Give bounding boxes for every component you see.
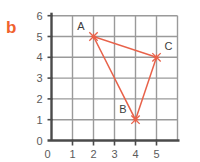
- axis-tick-labels: 0123456012345: [36, 10, 159, 160]
- point-label-c: C: [165, 40, 173, 52]
- y-axis-tick-label: 1: [36, 114, 42, 126]
- x-axis-tick-label: 5: [153, 148, 159, 160]
- point-marker-c: [152, 53, 160, 61]
- x-axis-tick-label: 2: [90, 148, 96, 160]
- point-label-b: B: [119, 103, 126, 115]
- y-axis-tick-label: 3: [36, 72, 42, 84]
- axis-ticks: [48, 16, 157, 146]
- y-axis-tick-label: 0: [36, 135, 42, 147]
- origin-label: 0: [44, 148, 50, 160]
- point-marker-b: [131, 116, 139, 124]
- y-axis-tick-label: 2: [36, 93, 42, 105]
- point-label-a: A: [77, 20, 85, 32]
- y-axis-tick-label: 5: [36, 31, 42, 43]
- figure-panel: b 0123456012345 ABC: [0, 0, 200, 162]
- point-marker-a: [89, 32, 97, 40]
- coordinate-grid-plot: 0123456012345 ABC: [0, 0, 200, 162]
- y-axis-tick-label: 6: [36, 10, 42, 22]
- y-axis-tick-label: 4: [36, 51, 42, 63]
- x-axis-tick-label: 3: [111, 148, 117, 160]
- x-axis-tick-label: 4: [132, 148, 138, 160]
- x-axis-tick-label: 1: [69, 148, 75, 160]
